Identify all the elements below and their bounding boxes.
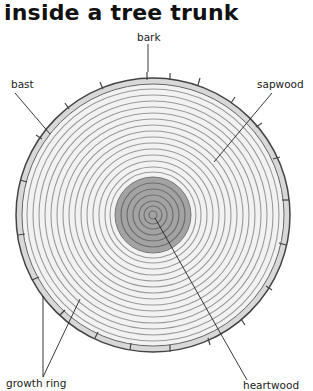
- label-sapwood: sapwood: [257, 78, 304, 90]
- label-bark: bark: [137, 31, 161, 43]
- label-bast: bast: [11, 78, 34, 90]
- label-heartwood: heartwood: [243, 379, 299, 391]
- label-growth-ring: growth ring: [6, 377, 66, 389]
